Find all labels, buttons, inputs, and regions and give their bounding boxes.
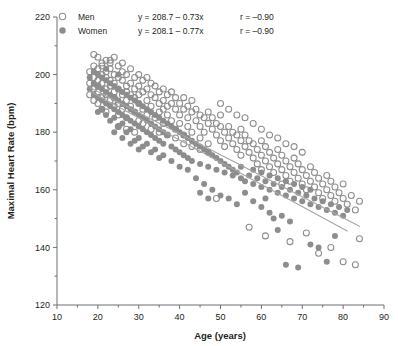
x-axis-title: Age (years) — [194, 330, 246, 341]
data-point — [316, 244, 322, 250]
data-point — [119, 135, 125, 141]
data-point — [254, 161, 260, 167]
axes-layer: 120140160180200220 102030405060708090 — [35, 12, 389, 322]
data-point — [328, 244, 334, 250]
data-point — [242, 190, 248, 196]
data-point — [148, 149, 154, 155]
legend-marker-men — [59, 13, 65, 19]
data-point — [352, 262, 358, 268]
data-point — [267, 172, 273, 178]
data-point — [197, 190, 203, 196]
data-point — [226, 135, 232, 141]
data-point — [213, 132, 219, 138]
data-point — [250, 155, 256, 161]
data-point — [213, 167, 219, 173]
data-point — [201, 181, 207, 187]
data-point — [193, 118, 199, 124]
data-point — [140, 144, 146, 150]
data-point — [291, 144, 297, 150]
data-point — [312, 195, 318, 201]
data-point — [254, 146, 260, 152]
data-point — [189, 158, 195, 164]
data-point — [287, 218, 293, 224]
data-point — [234, 112, 240, 118]
data-point — [128, 66, 134, 72]
data-point — [262, 158, 268, 164]
data-point — [279, 167, 285, 173]
data-point — [344, 201, 350, 207]
data-point — [348, 193, 354, 199]
data-point — [279, 213, 285, 219]
data-point — [242, 132, 248, 138]
x-tick-label: 30 — [134, 312, 144, 322]
data-point — [283, 262, 289, 268]
data-point — [246, 224, 252, 230]
data-point — [173, 106, 179, 112]
x-axis-ticks: 102030405060708090 — [52, 305, 389, 322]
data-point — [205, 109, 211, 115]
y-axis-ticks: 120140160180200220 — [35, 12, 57, 310]
data-point — [177, 100, 183, 106]
data-point — [262, 195, 268, 201]
data-point — [267, 164, 273, 170]
regression-line-men — [90, 87, 360, 226]
data-point — [287, 239, 293, 245]
data-point — [242, 178, 248, 184]
data-point — [267, 210, 273, 216]
data-point — [185, 123, 191, 129]
data-point — [316, 250, 322, 256]
data-point — [164, 112, 170, 118]
data-point — [250, 198, 256, 204]
data-point — [283, 178, 289, 184]
data-points-layer — [87, 51, 363, 270]
data-point — [246, 149, 252, 155]
data-point — [197, 135, 203, 141]
data-point — [275, 146, 281, 152]
data-point — [209, 187, 215, 193]
data-point — [222, 144, 228, 150]
series-women-points — [87, 66, 351, 271]
data-point — [160, 141, 166, 147]
data-point — [275, 227, 281, 233]
data-point — [205, 195, 211, 201]
data-point — [287, 164, 293, 170]
legend-label-women: Women — [78, 26, 107, 36]
series-men-points — [87, 51, 363, 267]
x-tick-label: 80 — [338, 312, 348, 322]
data-point — [177, 164, 183, 170]
data-point — [177, 112, 183, 118]
data-point — [328, 201, 334, 207]
data-point — [107, 118, 113, 124]
chart-canvas: Men y = 208.7 – 0.73x r = –0.90 Women y … — [0, 0, 398, 346]
data-point — [291, 170, 297, 176]
data-point — [299, 149, 305, 155]
data-point — [205, 164, 211, 170]
data-point — [177, 121, 183, 127]
data-point — [226, 123, 232, 129]
data-point — [193, 175, 199, 181]
data-point — [197, 161, 203, 167]
data-point — [299, 184, 305, 190]
data-point — [303, 172, 309, 178]
data-point — [132, 138, 138, 144]
data-point — [295, 161, 301, 167]
data-point — [291, 155, 297, 161]
data-point — [189, 98, 195, 104]
data-point — [218, 193, 224, 199]
data-point — [205, 121, 211, 127]
data-point — [218, 138, 224, 144]
data-point — [197, 123, 203, 129]
legend-equation-women: y = 208.1 – 0.77x — [138, 26, 204, 36]
x-tick-label: 20 — [93, 312, 103, 322]
data-point — [336, 190, 342, 196]
data-point — [168, 158, 174, 164]
data-point — [209, 115, 215, 121]
data-point — [303, 230, 309, 236]
data-point — [307, 178, 313, 184]
data-point — [307, 187, 313, 193]
y-tick-label: 160 — [35, 185, 50, 195]
legend-correlation-women: r = –0.90 — [240, 26, 274, 36]
data-point — [324, 172, 330, 178]
scatter-plot-figure: Men y = 208.7 – 0.73x r = –0.90 Women y … — [0, 0, 398, 346]
data-point — [115, 123, 121, 129]
